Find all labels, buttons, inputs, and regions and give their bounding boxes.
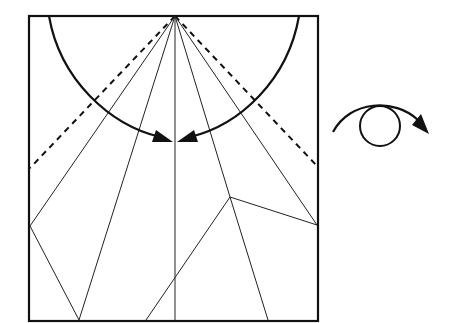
crease-line bbox=[175, 16, 230, 197]
fold-arrows bbox=[49, 16, 299, 142]
crease-line bbox=[30, 226, 79, 320]
crease-line bbox=[175, 16, 317, 225]
turn-over-circle-icon bbox=[360, 106, 400, 146]
left-arrowhead-icon bbox=[152, 130, 173, 142]
turn-over-arc-icon bbox=[333, 105, 418, 132]
crease-line bbox=[146, 197, 230, 320]
crease-line bbox=[230, 197, 317, 225]
valley-folds bbox=[30, 16, 317, 168]
origami-diagram bbox=[0, 0, 459, 323]
paper-square bbox=[29, 16, 318, 321]
valley-fold-left bbox=[30, 16, 175, 168]
right-arrowhead-icon bbox=[177, 130, 198, 142]
turn-over-symbol bbox=[333, 105, 429, 146]
crease-line bbox=[230, 197, 268, 320]
crease-line bbox=[30, 16, 175, 226]
crease-lines bbox=[30, 16, 317, 320]
crease-line bbox=[79, 16, 175, 320]
valley-fold-right bbox=[175, 16, 317, 166]
